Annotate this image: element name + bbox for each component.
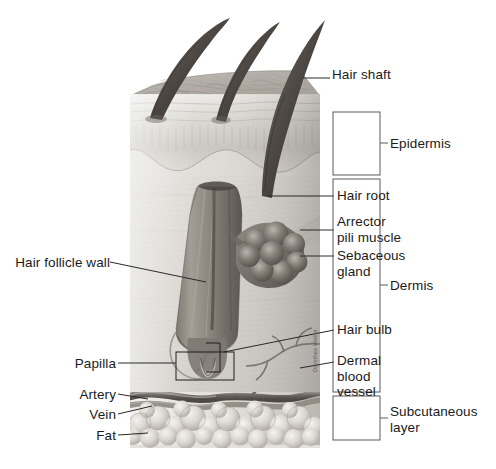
box-epidermis: [333, 112, 380, 175]
label-subcutaneous-line1: Subcutaneous: [390, 404, 478, 419]
label-dermal-blood-vessel: Dermalbloodvessel: [337, 353, 381, 400]
label-papilla: Papilla: [4, 356, 116, 372]
label-dermal-line2: blood: [337, 369, 371, 384]
label-arrector-pili-line1: Arrector: [337, 214, 386, 229]
label-epidermis: Epidermis: [390, 136, 451, 152]
label-sebaceous-gland: Sebaceousgland: [337, 248, 405, 279]
label-arrector-pili-muscle: Arrectorpili muscle: [337, 214, 401, 245]
label-hair-root: Hair root: [337, 188, 390, 204]
label-fat: Fat: [4, 428, 116, 444]
label-sebaceous-line2: gland: [337, 264, 371, 279]
label-dermal-line3: vessel: [337, 384, 376, 399]
artist-signature: Dorothea Weber: [312, 329, 318, 372]
label-arrector-pili-line2: pili muscle: [337, 230, 401, 245]
label-artery: Artery: [4, 387, 116, 403]
box-subcutaneous: [333, 396, 380, 440]
label-subcutaneous-layer: Subcutaneouslayer: [390, 404, 478, 435]
label-hair-bulb: Hair bulb: [337, 322, 392, 338]
label-subcutaneous-line2: layer: [390, 420, 420, 435]
figure-root: #art [data-name="fat-globules"] circle {…: [0, 0, 496, 469]
label-hair-follicle-wall: Hair follicle wall: [4, 255, 110, 271]
label-hair-shaft: Hair shaft: [332, 67, 391, 83]
label-sebaceous-line1: Sebaceous: [337, 248, 405, 263]
label-vein: Vein: [4, 407, 116, 423]
label-dermis: Dermis: [390, 278, 433, 294]
label-dermal-line1: Dermal: [337, 353, 381, 368]
